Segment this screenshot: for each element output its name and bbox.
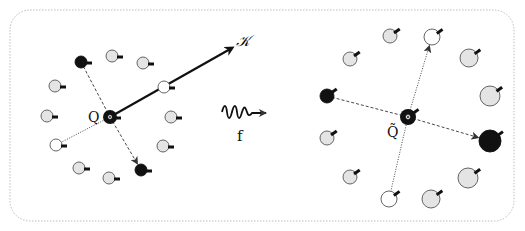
node-black-circle (135, 164, 152, 176)
node-black-circle (320, 89, 337, 103)
squiggle-arrow-icon (222, 106, 266, 118)
node-gray-circle (460, 49, 480, 67)
node-white-circle (50, 139, 67, 151)
node-gray-circle (320, 131, 337, 145)
node-gray-circle (343, 170, 360, 184)
diagram-canvas: Q 𝒦 f Q̃ (0, 0, 525, 231)
node-gray-circle (458, 168, 480, 188)
node-gray-circle (73, 162, 90, 174)
label-q-tilde: Q̃ (387, 123, 398, 140)
node-white-circle (424, 29, 443, 45)
graph-edge (56, 117, 110, 145)
vector-arrow-k (110, 48, 232, 117)
node-gray-circle (41, 110, 58, 122)
node-gray-circle (165, 111, 182, 123)
center-node-q-tilde (400, 109, 419, 125)
graph-edge (408, 46, 429, 117)
label-q: Q (88, 109, 99, 125)
node-gray-circle (137, 57, 154, 69)
node-gray-circle (383, 29, 400, 43)
label-f: f (237, 127, 244, 145)
label-k: 𝒦 (236, 32, 255, 50)
graph-edge (408, 117, 478, 138)
node-white-circle (381, 191, 400, 207)
graph-edge (110, 117, 137, 164)
mapping-arrow-f (222, 106, 266, 118)
node-gray-circle (49, 80, 66, 92)
node-gray-circle (422, 190, 442, 208)
node-black-circle (479, 130, 503, 152)
vector-line (110, 48, 232, 117)
node-black-circle (75, 56, 92, 68)
node-gray-circle (480, 86, 502, 106)
node-gray-circle (106, 50, 123, 62)
node-gray-circle (343, 52, 360, 66)
node-gray-circle (103, 172, 120, 184)
graph-edge (327, 96, 408, 117)
node-gray-circle (157, 140, 174, 152)
